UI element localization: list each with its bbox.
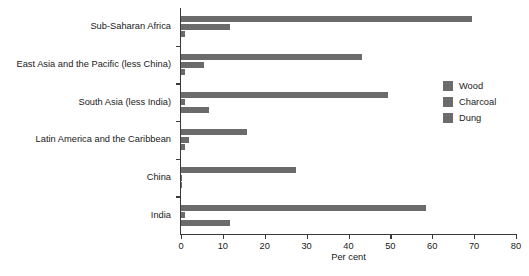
legend-swatch-icon xyxy=(443,81,453,91)
bar-wood-3 xyxy=(181,129,247,135)
bar-dung-3 xyxy=(181,144,185,150)
bar-charcoal-5 xyxy=(181,212,185,218)
bar-dung-0 xyxy=(181,31,185,37)
bar-wood-4 xyxy=(181,167,296,173)
category-label-3: Latin America and the Caribbean xyxy=(0,134,171,145)
bar-wood-2 xyxy=(181,92,388,98)
bar-dung-1 xyxy=(181,69,185,75)
legend-swatch-icon xyxy=(443,97,453,107)
x-axis-tick-label: 60 xyxy=(417,241,447,252)
category-label-4: China xyxy=(0,172,171,183)
x-axis-tick-label: 10 xyxy=(208,241,238,252)
bar-charcoal-3 xyxy=(181,137,189,143)
x-axis-tick-label: 80 xyxy=(501,241,529,252)
x-axis-tick xyxy=(223,234,224,239)
y-axis-tick xyxy=(176,159,181,160)
legend-label: Charcoal xyxy=(459,97,496,108)
legend-label: Dung xyxy=(459,113,481,124)
bar-wood-5 xyxy=(181,205,426,211)
y-axis-tick xyxy=(176,46,181,47)
x-axis-tick xyxy=(516,234,517,239)
bar-dung-5 xyxy=(181,220,230,226)
category-label-1: East Asia and the Pacific (less China) xyxy=(0,59,171,70)
x-axis-tick xyxy=(474,234,475,239)
y-axis-tick xyxy=(176,83,181,84)
x-axis-tick xyxy=(390,234,391,239)
x-axis-tick-label: 70 xyxy=(459,241,489,252)
category-label-0: Sub-Saharan Africa xyxy=(0,21,171,32)
y-axis-tick xyxy=(176,121,181,122)
legend-label: Wood xyxy=(459,81,483,92)
bar-dung-2 xyxy=(181,107,209,113)
x-axis-tick-label: 0 xyxy=(166,241,196,252)
bar-wood-1 xyxy=(181,54,362,60)
x-axis-tick-label: 30 xyxy=(292,241,322,252)
x-axis-tick xyxy=(307,234,308,239)
legend-swatch-icon xyxy=(443,113,453,123)
bar-charcoal-0 xyxy=(181,24,230,30)
x-axis-tick-label: 50 xyxy=(375,241,405,252)
category-label-2: South Asia (less India) xyxy=(0,97,171,108)
x-axis-tick-label: 40 xyxy=(334,241,364,252)
x-axis-tick xyxy=(349,234,350,239)
category-label-5: India xyxy=(0,210,171,221)
legend-item-wood[interactable]: Wood xyxy=(443,78,529,94)
legend-item-charcoal[interactable]: Charcoal xyxy=(443,94,529,110)
bar-charcoal-4 xyxy=(181,175,182,181)
x-axis-tick xyxy=(432,234,433,239)
legend-item-dung[interactable]: Dung xyxy=(443,110,529,126)
y-axis-tick xyxy=(176,196,181,197)
chart-legend: WoodCharcoalDung xyxy=(443,78,529,126)
bar-wood-0 xyxy=(181,16,472,22)
x-axis-tick xyxy=(265,234,266,239)
category-axis-labels: Sub-Saharan AfricaEast Asia and the Paci… xyxy=(0,8,176,234)
x-axis-title: Per cent xyxy=(181,252,516,262)
x-axis-tick-label: 20 xyxy=(250,241,280,252)
bar-chart: Sub-Saharan AfricaEast Asia and the Paci… xyxy=(0,0,529,276)
bar-charcoal-1 xyxy=(181,62,204,68)
x-axis-tick xyxy=(181,234,182,239)
bar-dung-4 xyxy=(181,182,182,188)
bar-charcoal-2 xyxy=(181,99,185,105)
